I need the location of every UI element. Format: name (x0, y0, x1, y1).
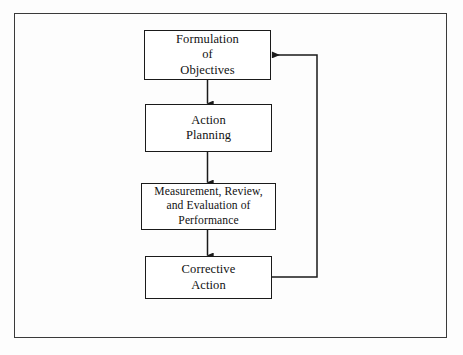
diagram-page: Formulation of Objectives Action Plannin… (0, 0, 463, 355)
node-action-planning[interactable]: Action Planning (145, 104, 272, 152)
node-action-planning-label: Action Planning (182, 113, 235, 144)
node-measurement-label: Measurement, Review, and Evaluation of P… (150, 185, 266, 227)
connector-feedback-corrective-to-formulation (272, 55, 317, 277)
node-corrective-action[interactable]: Corrective Action (145, 256, 272, 299)
node-formulation-label: Formulation of Objectives (172, 32, 243, 78)
node-measurement-review-evaluation[interactable]: Measurement, Review, and Evaluation of P… (141, 183, 276, 230)
node-corrective-label: Corrective Action (178, 262, 240, 293)
node-formulation-of-objectives[interactable]: Formulation of Objectives (144, 30, 271, 80)
